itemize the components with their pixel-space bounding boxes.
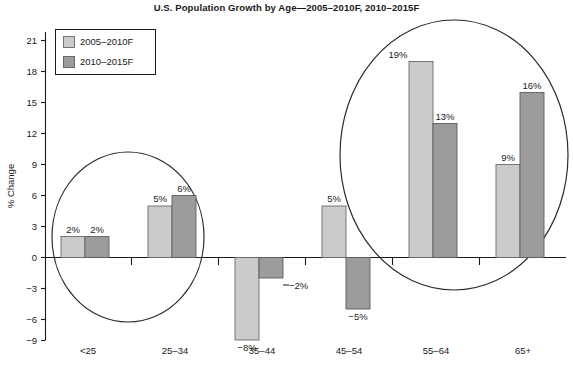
- y-tick-label-21: 21: [26, 35, 37, 46]
- bar-chart-plot: 21 18 15 12 9 6 3 0 −3 −6 −9 % Change 2%…: [0, 0, 573, 370]
- y-tick-label-12: 12: [26, 128, 37, 139]
- dark-gray-swatch: [64, 57, 75, 68]
- y-tick-label-15: 15: [26, 97, 37, 108]
- x-tick-label-25-34: 25–34: [162, 345, 188, 356]
- x-axis-ticks: [132, 258, 480, 266]
- light-gray-swatch: [64, 37, 75, 48]
- x-tick-label-lt25: <25: [80, 345, 96, 356]
- legend-item-label-2005-2010F: 2005–2010F: [80, 36, 134, 47]
- x-tick-label-65plus: 65+: [515, 345, 532, 356]
- y-tick-label-3: 3: [32, 221, 37, 232]
- bar-label-2005-2010F-55-64: 19%: [388, 49, 408, 60]
- bar-2005-2010F-45-54: [322, 206, 346, 258]
- bar-2005-2010F-25-34: [148, 206, 172, 258]
- bar-label-2005-2010F-45-54: 5%: [327, 193, 341, 204]
- y-tick-label-neg6: −6: [26, 314, 37, 325]
- y-tick-label-18: 18: [26, 66, 37, 77]
- legend-item-label-2010-2015F: 2010–2015F: [80, 56, 134, 67]
- x-tick-label-45-54: 45–54: [336, 345, 362, 356]
- y-axis-title: % Change: [5, 164, 16, 208]
- bar-2005-2010F-lt25: [61, 237, 85, 258]
- bar-2005-2010F-55-64: [409, 62, 433, 258]
- y-tick-label-0: 0: [32, 252, 37, 263]
- bar-2010-2015F-65plus: [520, 93, 544, 258]
- bar-label-2005-2010F-65plus: 9%: [501, 152, 515, 163]
- y-tick-label-6: 6: [32, 190, 37, 201]
- chart-legend: 2005–2010F 2010–2015F: [56, 30, 156, 75]
- bar-label-2010-2015F-45-54: −5%: [348, 311, 368, 322]
- bar-label-2010-2015F-65plus: 16%: [522, 80, 542, 91]
- chart-container: U.S. Population Growth by Age—2005–2010F…: [0, 0, 573, 370]
- x-tick-label-35-44: 35–44: [249, 345, 275, 356]
- bar-label-2005-2010F-lt25: 2%: [66, 224, 80, 235]
- bar-label-2010-2015F-lt25: 2%: [90, 224, 104, 235]
- x-tick-label-55-64: 55–64: [423, 345, 449, 356]
- bar-label-2010-2015F-55-64: 13%: [435, 111, 455, 122]
- y-tick-label-neg3: −3: [26, 283, 37, 294]
- bar-2010-2015F-25-34: [172, 196, 196, 258]
- y-tick-label-neg9: −9: [26, 335, 37, 346]
- bar-label-2010-2015F-25-34: 6%: [177, 183, 191, 194]
- y-axis-ticks: [41, 41, 46, 341]
- y-tick-label-9: 9: [32, 159, 37, 170]
- bar-2005-2010F-65plus: [496, 165, 520, 258]
- bar-label-2005-2010F-25-34: 5%: [153, 193, 167, 204]
- bar-label-2010-2015F-35-44: −2%: [289, 280, 309, 291]
- bar-2010-2015F-45-54: [346, 258, 370, 310]
- bar-2005-2010F-35-44: [235, 258, 259, 341]
- bar-2010-2015F-35-44: [259, 258, 283, 279]
- bar-2010-2015F-55-64: [433, 124, 457, 258]
- bar-2010-2015F-lt25: [85, 237, 109, 258]
